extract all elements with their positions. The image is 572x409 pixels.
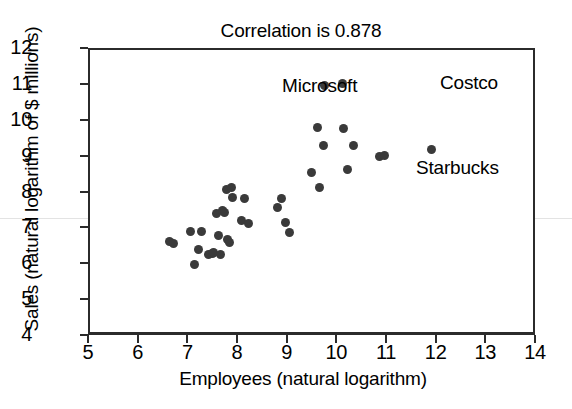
data-point [186, 227, 195, 236]
data-point [313, 123, 322, 132]
y-tick-label-5: 5 [6, 288, 32, 308]
y-tick-label-10: 10 [6, 109, 32, 129]
annotation-label-microsoft: Microsoft [282, 75, 357, 97]
x-tick-mark-12 [435, 335, 437, 343]
x-tick-mark-11 [385, 335, 387, 343]
data-point [169, 239, 178, 248]
data-point [273, 203, 282, 212]
y-tick-mark-12 [80, 47, 88, 49]
data-point [220, 208, 229, 217]
data-point [285, 228, 294, 237]
data-point [349, 141, 358, 150]
data-point [427, 145, 436, 154]
x-tick-mark-9 [286, 335, 288, 343]
data-point [190, 260, 199, 269]
annotation-label-starbucks: Starbucks [416, 157, 499, 179]
x-tick-label-10: 10 [316, 341, 356, 363]
data-point [380, 151, 389, 160]
data-point [319, 141, 328, 150]
data-point [227, 183, 236, 192]
data-point [214, 231, 223, 240]
x-tick-mark-7 [186, 335, 188, 343]
x-tick-label-9: 9 [267, 341, 307, 363]
annotation-label-costco: Costco [440, 72, 498, 94]
y-tick-mark-9 [80, 155, 88, 157]
x-tick-label-11: 11 [366, 341, 406, 363]
data-point [343, 165, 352, 174]
data-point [194, 245, 203, 254]
x-tick-mark-10 [335, 335, 337, 343]
x-tick-label-12: 12 [416, 341, 456, 363]
x-tick-label-6: 6 [118, 341, 158, 363]
x-tick-label-13: 13 [465, 341, 505, 363]
x-tick-mark-14 [534, 335, 536, 343]
y-tick-label-8: 8 [6, 181, 32, 201]
y-tick-label-9: 9 [6, 145, 32, 165]
y-tick-mark-5 [80, 298, 88, 300]
y-tick-mark-6 [80, 262, 88, 264]
x-tick-label-5: 5 [68, 341, 108, 363]
data-point [244, 219, 253, 228]
x-tick-label-7: 7 [167, 341, 207, 363]
y-tick-label-11: 11 [6, 73, 32, 93]
data-point [339, 124, 348, 133]
y-tick-mark-8 [80, 191, 88, 193]
y-tick-label-7: 7 [6, 216, 32, 236]
data-point [228, 193, 237, 202]
data-point [216, 250, 225, 259]
x-tick-label-14: 14 [515, 341, 555, 363]
x-axis-title: Employees (natural logarithm) [0, 368, 572, 390]
data-point [225, 238, 234, 247]
x-tick-mark-5 [87, 335, 89, 343]
data-point [197, 227, 206, 236]
data-point [240, 194, 249, 203]
y-tick-label-4: 4 [6, 324, 32, 344]
y-tick-mark-7 [80, 226, 88, 228]
data-point [277, 194, 286, 203]
data-point [315, 183, 324, 192]
x-tick-label-8: 8 [217, 341, 257, 363]
x-tick-mark-8 [236, 335, 238, 343]
y-tick-label-12: 12 [6, 37, 32, 57]
x-tick-mark-6 [137, 335, 139, 343]
chart-title: Correlation is 0.878 [0, 20, 572, 42]
data-point [307, 168, 316, 177]
y-tick-mark-11 [80, 83, 88, 85]
scatter-plot-figure: Correlation is 0.878 Sales (natural loga… [0, 0, 572, 409]
y-tick-mark-10 [80, 119, 88, 121]
y-tick-label-6: 6 [6, 252, 32, 272]
x-tick-mark-13 [484, 335, 486, 343]
data-point [281, 218, 290, 227]
